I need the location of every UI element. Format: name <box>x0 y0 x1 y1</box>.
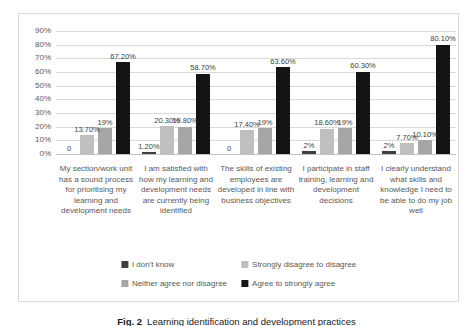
y-axis-tick: 30% <box>18 108 51 118</box>
gridline <box>56 154 456 155</box>
y-axis-tick: 20% <box>18 122 51 132</box>
bar <box>98 128 112 154</box>
bar-value-label: 2% <box>384 141 395 150</box>
y-axis-tick: 70% <box>18 53 51 63</box>
bar-value-label: 19% <box>337 118 352 127</box>
bar <box>320 129 334 154</box>
bar <box>436 45 450 154</box>
category-label: I am satisfied with how my learning and … <box>136 164 216 217</box>
bar-value-label: 58.70% <box>190 63 215 72</box>
bar <box>302 151 316 154</box>
bar <box>196 74 210 154</box>
bar-value-label: 60.30% <box>350 61 375 70</box>
bar-value-label: 17.40% <box>234 120 259 129</box>
bar-value-label: 1.20% <box>138 142 159 151</box>
category-label: I participate in staff training, learnin… <box>296 164 376 206</box>
bar-value-label: 67.20% <box>110 52 135 61</box>
legend-item: Agree to strongly agree <box>241 279 356 288</box>
bar <box>276 67 290 154</box>
legend-marker <box>241 261 248 268</box>
bar-value-label: 0 <box>67 144 71 153</box>
category-label: My section/work unit has a sound process… <box>56 164 136 217</box>
bar-value-label: 2% <box>304 141 315 150</box>
bar-value-label: 63.60% <box>270 57 295 66</box>
legend: I don't knowStrongly disagree to disagre… <box>121 260 356 288</box>
y-axis-tick: 50% <box>18 81 51 91</box>
bar <box>258 128 272 154</box>
legend-label: Strongly disagree to disagree <box>252 260 356 269</box>
plot-area: 013.70%19%67.20%1.20%20.30%19.80%58.70%0… <box>56 31 456 154</box>
legend-marker <box>121 280 128 287</box>
bar <box>80 135 94 154</box>
y-axis: 0%10%20%30%40%50%60%70%80%90% <box>19 31 52 154</box>
bar-value-label: 0 <box>227 144 231 153</box>
gridline <box>56 31 456 32</box>
legend-marker <box>241 280 248 287</box>
bar-value-label: 10.10% <box>412 130 437 139</box>
bar-value-label: 13.70% <box>74 125 99 134</box>
legend-item: Strongly disagree to disagree <box>241 260 356 269</box>
y-axis-tick: 80% <box>18 40 51 50</box>
figure-caption: Fig. 2Learning identification and develo… <box>0 316 473 326</box>
bar-value-label: 80.10% <box>430 34 455 43</box>
bar <box>178 127 192 154</box>
bar <box>160 126 174 154</box>
legend-item: Neither agree nor disagree <box>121 279 227 288</box>
bar <box>116 62 130 154</box>
caption-label: Fig. 2 <box>117 316 142 326</box>
y-axis-tick: 0% <box>18 149 51 159</box>
y-axis-tick: 40% <box>18 94 51 104</box>
bar-value-label: 18.60% <box>314 118 339 127</box>
bar <box>418 140 432 154</box>
bar-chart: 0%10%20%30%40%50%60%70%80%90% 013.70%19%… <box>18 13 459 302</box>
category-label: I clearly understand what skills and kno… <box>376 164 456 217</box>
bar <box>142 152 156 154</box>
caption-text: Learning identification and development … <box>147 316 356 326</box>
legend-label: I don't know <box>132 260 174 269</box>
bar <box>338 128 352 154</box>
bar-value-label: 19.80% <box>172 116 197 125</box>
legend-label: Neither agree nor disagree <box>132 279 227 288</box>
bar-value-label: 19% <box>257 118 272 127</box>
y-axis-tick: 10% <box>18 135 51 145</box>
bar <box>382 151 396 154</box>
legend-item: I don't know <box>121 260 227 269</box>
bar <box>400 143 414 154</box>
legend-label: Agree to strongly agree <box>252 279 335 288</box>
figure-page: 0%10%20%30%40%50%60%70%80%90% 013.70%19%… <box>0 0 473 326</box>
legend-marker <box>121 261 128 268</box>
gridline <box>56 45 456 46</box>
bar <box>240 130 254 154</box>
y-axis-tick: 90% <box>18 26 51 36</box>
y-axis-tick: 60% <box>18 67 51 77</box>
bar-value-label: 19% <box>97 118 112 127</box>
category-label: The skills of existing employees are dev… <box>216 164 296 206</box>
bar <box>356 72 370 154</box>
